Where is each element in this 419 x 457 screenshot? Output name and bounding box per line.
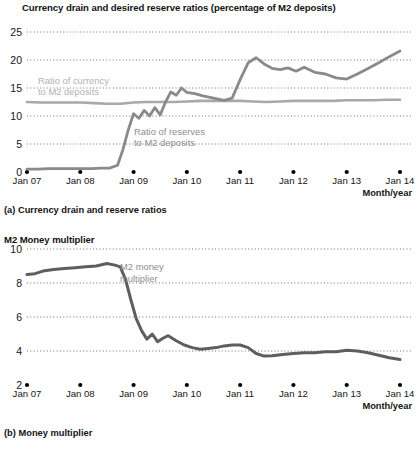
x-axis-tick-label: Jan 13 bbox=[332, 388, 361, 399]
x-axis-tick-label: Jan 14 bbox=[386, 175, 415, 186]
panel-currency-drain-reserve-ratios: Currency drain and desired reserve ratio… bbox=[0, 0, 419, 222]
data-series-line bbox=[27, 51, 400, 169]
y-axis-tick-label: 10 bbox=[10, 110, 22, 122]
x-axis-tick-label: Jan 12 bbox=[279, 388, 308, 399]
x-axis-title: Month/year bbox=[362, 188, 412, 198]
y-axis-tick-label: 25 bbox=[10, 26, 22, 38]
panel-a-caption: (a) Currency drain and reserve ratios bbox=[4, 205, 167, 215]
y-axis-tick-label: 5 bbox=[16, 138, 22, 150]
x-axis-tick-dot bbox=[131, 383, 135, 387]
x-axis-tick-label: Jan 07 bbox=[13, 175, 42, 186]
series-annotation-label: to M2 deposits bbox=[38, 86, 99, 97]
x-axis-tick-dot bbox=[345, 383, 349, 387]
y-axis-tick-label: 8 bbox=[16, 277, 22, 289]
series-annotation-label: M2 money bbox=[120, 261, 164, 272]
x-axis-tick-dot bbox=[185, 383, 189, 387]
x-axis-tick-dot bbox=[78, 170, 82, 174]
x-axis-tick-label: Jan 08 bbox=[66, 388, 95, 399]
x-axis-tick-dot bbox=[345, 170, 349, 174]
chart-b-plot: 246810Jan 07Jan 08Jan 09Jan 10Jan 11Jan … bbox=[0, 222, 419, 422]
figure-money-multiplier: Currency drain and desired reserve ratio… bbox=[0, 0, 419, 457]
x-axis-tick-dot bbox=[131, 170, 135, 174]
y-axis-tick-label: 6 bbox=[16, 311, 22, 323]
x-axis-tick-label: Jan 10 bbox=[172, 388, 201, 399]
series-annotation-label: Ratio of currency bbox=[38, 75, 109, 86]
x-axis-tick-label: Jan 11 bbox=[226, 388, 254, 399]
y-axis-tick-label: 20 bbox=[10, 54, 22, 66]
x-axis-tick-label: Jan 13 bbox=[332, 175, 361, 186]
series-annotation-label: multiplier bbox=[120, 273, 158, 284]
x-axis-tick-label: Jan 11 bbox=[226, 175, 254, 186]
x-axis-tick-label: Jan 09 bbox=[119, 388, 148, 399]
x-axis-tick-dot bbox=[398, 170, 402, 174]
x-axis-tick-dot bbox=[185, 170, 189, 174]
panel-money-multiplier: M2 Money multiplier 246810Jan 07Jan 08Ja… bbox=[0, 222, 419, 457]
x-axis-tick-dot bbox=[398, 383, 402, 387]
x-axis-tick-label: Jan 12 bbox=[279, 175, 308, 186]
y-axis-tick-label: 10 bbox=[10, 243, 22, 255]
x-axis-title: Month/year bbox=[362, 401, 412, 411]
x-axis-tick-label: Jan 07 bbox=[13, 388, 42, 399]
y-axis-tick-label: 4 bbox=[16, 345, 22, 357]
panel-b-caption: (b) Money multiplier bbox=[4, 428, 92, 438]
x-axis-tick-dot bbox=[291, 170, 295, 174]
data-series-line bbox=[27, 100, 400, 104]
x-axis-tick-dot bbox=[291, 383, 295, 387]
x-axis-tick-label: Jan 10 bbox=[172, 175, 201, 186]
x-axis-tick-label: Jan 09 bbox=[119, 175, 148, 186]
x-axis-tick-label: Jan 08 bbox=[66, 175, 95, 186]
x-axis-tick-dot bbox=[238, 170, 242, 174]
x-axis-tick-dot bbox=[78, 383, 82, 387]
x-axis-tick-dot bbox=[238, 383, 242, 387]
data-series-line bbox=[27, 263, 400, 359]
x-axis-tick-dot bbox=[25, 383, 29, 387]
y-axis-tick-label: 15 bbox=[10, 82, 22, 94]
chart-a-plot: 0510152025Jan 07Jan 08Jan 09Jan 10Jan 11… bbox=[0, 0, 419, 200]
series-annotation-label: Ratio of reserves bbox=[134, 126, 205, 137]
series-annotation-label: to M2 deposits bbox=[134, 137, 195, 148]
x-axis-tick-label: Jan 14 bbox=[386, 388, 415, 399]
